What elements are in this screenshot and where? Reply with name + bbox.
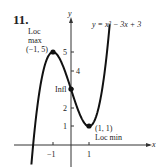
- inflection-point: [68, 86, 73, 91]
- loc-min-point-label: (1, 1): [95, 124, 112, 133]
- y-tick-2: 2: [63, 104, 67, 113]
- loc-max-point-label: (−1, 5): [26, 45, 48, 54]
- equation-label: y = x³ − 3x + 3: [92, 20, 141, 29]
- loc-max-label-1: Loc: [28, 27, 40, 36]
- x-tick-neg1: −1: [47, 150, 56, 159]
- y-tick-1: 1: [63, 122, 67, 131]
- inflection-label: Infl: [55, 85, 67, 94]
- y-tick-5: 5: [63, 48, 67, 57]
- x-axis-label: x: [152, 140, 156, 149]
- loc-max-label-2: max: [28, 36, 42, 45]
- y-axis-label: y: [68, 9, 72, 18]
- loc-min-label: Loc min: [95, 133, 122, 142]
- y-tick-4: 4: [76, 67, 80, 76]
- x-tick-1: 1: [87, 150, 91, 159]
- local-max-point: [50, 49, 55, 54]
- local-min-point: [86, 123, 91, 128]
